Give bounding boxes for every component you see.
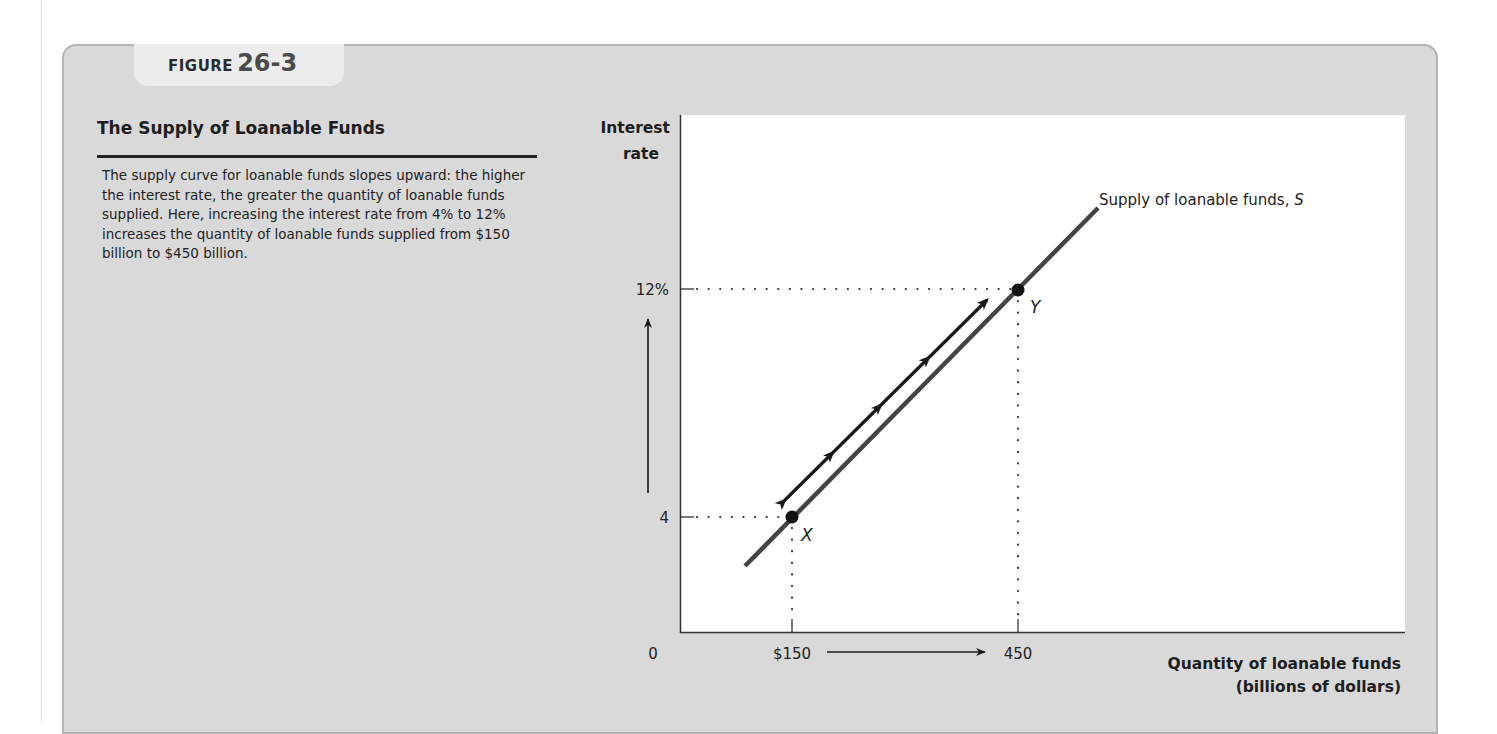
point-x-marker <box>786 511 799 524</box>
x-tick-label-450: 450 <box>1004 645 1033 663</box>
supply-curve-label-text: Supply of loanable funds, <box>1099 191 1294 209</box>
y-tick-label-12: 12% <box>636 281 669 299</box>
point-x-label: X <box>800 525 813 545</box>
y-axis-title-line2: rate <box>623 145 659 163</box>
y-tick-label-4: 4 <box>659 509 669 527</box>
point-y-marker <box>1012 284 1025 297</box>
x-axis-title-line1: Quantity of loanable funds <box>1168 655 1402 673</box>
x-tick-label-150: $150 <box>773 645 811 663</box>
supply-curve-label: Supply of loanable funds, S <box>1099 191 1304 209</box>
point-y-label: Y <box>1030 297 1042 317</box>
y-axis-title-line1: Interest <box>600 119 670 137</box>
origin-label: 0 <box>648 645 658 663</box>
x-axis-title-line2: (billions of dollars) <box>1236 678 1401 696</box>
supply-curve-symbol: S <box>1294 191 1304 209</box>
